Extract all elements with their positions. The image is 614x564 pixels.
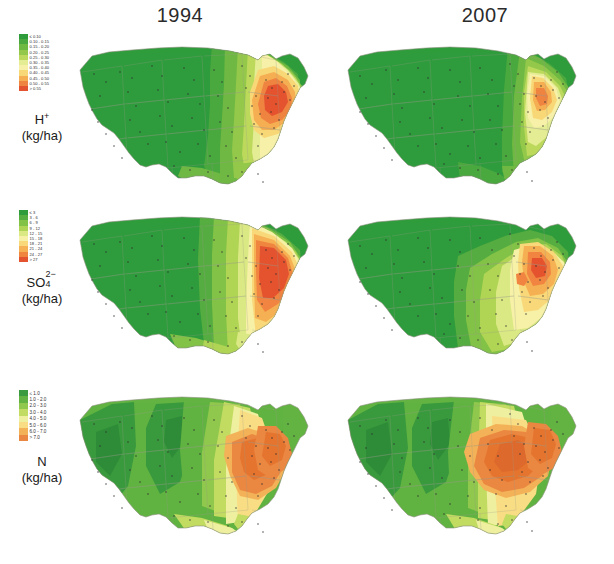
legend-label: > 7.0 — [30, 435, 40, 440]
legend-label: > 0.55 — [30, 86, 42, 91]
map-svg — [62, 196, 327, 381]
map-nitrogen-1994[interactable] — [62, 376, 327, 561]
legend-label: 3.0 - 4.0 — [30, 410, 47, 415]
row-hydrogen: ≤ 0.100.10 - 0.150.15 - 0.200.20 - 0.250… — [0, 26, 614, 211]
legend-entry: > 0.55 — [19, 86, 49, 91]
legend-swatch — [19, 435, 28, 441]
legend-hydrogen: ≤ 0.100.10 - 0.150.15 - 0.200.20 - 0.250… — [19, 34, 49, 91]
legend-label: > 27 — [30, 257, 38, 262]
legend-label: 4.0 - 5.0 — [30, 416, 47, 421]
map-sulfate-1994[interactable] — [62, 196, 327, 381]
legend-label: 2.0 - 3.0 — [30, 403, 47, 408]
map-svg — [330, 26, 595, 211]
column-header-2007: 2007 — [425, 4, 545, 27]
map-svg — [62, 26, 327, 211]
legend-label: ≤ 1.0 — [30, 391, 40, 396]
legend-entry: > 27 — [19, 257, 42, 262]
map-svg — [330, 376, 595, 561]
deposition-figure: 1994 2007 ≤ 0.100.10 - 0.150.15 - 0.200.… — [0, 0, 614, 564]
map-sulfate-2007[interactable] — [330, 196, 595, 381]
legend-nitrogen: ≤ 1.01.0 - 2.02.0 - 3.03.0 - 4.04.0 - 5.… — [19, 390, 46, 441]
legend-sulfate: ≤ 33 - 66 - 99 - 1212 - 1515 - 1818 - 21… — [19, 210, 42, 262]
column-header-1994: 1994 — [120, 4, 240, 27]
legend-label: 5.0 - 6.0 — [30, 423, 47, 428]
legend-entry: > 7.0 — [19, 435, 46, 441]
map-nitrogen-2007[interactable] — [330, 376, 595, 561]
map-svg — [330, 196, 595, 381]
map-svg — [62, 376, 327, 561]
legend-label: 1.0 - 2.0 — [30, 397, 47, 402]
legend-label: 6.0 - 7.0 — [30, 429, 47, 434]
row-nitrogen: ≤ 1.01.0 - 2.02.0 - 3.03.0 - 4.04.0 - 5.… — [0, 376, 614, 561]
map-hydrogen-1994[interactable] — [62, 26, 327, 211]
legend-swatch — [19, 86, 28, 91]
row-sulfate: ≤ 33 - 66 - 99 - 1212 - 1515 - 1818 - 21… — [0, 196, 614, 381]
legend-swatch — [19, 257, 28, 262]
map-hydrogen-2007[interactable] — [330, 26, 595, 211]
